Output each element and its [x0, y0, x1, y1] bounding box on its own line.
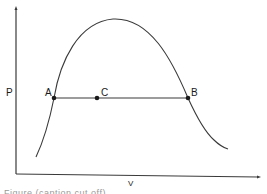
coexistence-curve	[36, 19, 228, 157]
pv-diagram: P V A C B Figure (caption cut off)	[0, 0, 267, 194]
point-c-label: C	[101, 88, 108, 98]
figure-caption: Figure (caption cut off)	[4, 189, 106, 194]
point-a-label: A	[45, 88, 52, 98]
point-b-label: B	[191, 88, 198, 98]
x-axis-label: V	[128, 180, 133, 188]
diagram-canvas	[0, 0, 267, 194]
y-axis-label: P	[6, 88, 13, 98]
point-b-marker	[186, 96, 191, 101]
point-c-marker	[95, 96, 100, 101]
point-a-marker	[52, 96, 57, 101]
y-axis-arrow-icon	[15, 6, 18, 10]
x-axis-arrow-icon	[257, 176, 261, 179]
x-axis	[16, 174, 258, 177]
